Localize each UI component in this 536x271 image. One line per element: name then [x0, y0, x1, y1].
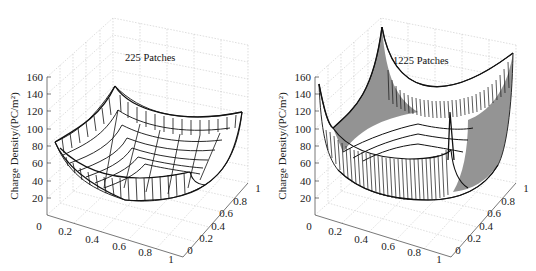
x-tick-labels: 0.2 0.4 0.6 0.8 1: [328, 225, 442, 265]
svg-text:0.2: 0.2: [58, 225, 72, 237]
svg-text:20: 20: [300, 192, 312, 204]
svg-text:80: 80: [32, 140, 44, 152]
svg-text:60: 60: [300, 157, 312, 169]
svg-text:0.2: 0.2: [328, 225, 342, 237]
x-tick-labels: 0.2 0.4 0.6 0.8 1: [58, 225, 174, 265]
svg-text:0.4: 0.4: [479, 220, 493, 232]
svg-text:120: 120: [295, 105, 312, 117]
chart-panel-1225: 160 140 120 100 80 60 40 20 0 0.2 0.4 0.…: [268, 0, 536, 271]
svg-text:0: 0: [36, 220, 42, 232]
svg-text:0: 0: [306, 220, 312, 232]
svg-text:0: 0: [455, 244, 461, 256]
svg-text:160: 160: [27, 71, 44, 83]
surface-mesh: [55, 86, 242, 201]
svg-text:20: 20: [32, 192, 44, 204]
svg-text:60: 60: [32, 157, 44, 169]
svg-text:140: 140: [295, 88, 312, 100]
svg-text:0.6: 0.6: [487, 207, 501, 219]
svg-text:1: 1: [436, 253, 442, 265]
svg-text:160: 160: [295, 71, 312, 83]
svg-text:0.2: 0.2: [467, 232, 481, 244]
svg-text:0.4: 0.4: [85, 233, 99, 245]
svg-text:0.8: 0.8: [407, 246, 421, 258]
svg-text:100: 100: [27, 123, 44, 135]
svg-text:100: 100: [295, 123, 312, 135]
svg-text:140: 140: [27, 88, 44, 100]
z-tick-labels: 160 140 120 100 80 60 40 20 0: [295, 71, 313, 232]
svg-text:0.4: 0.4: [211, 220, 225, 232]
svg-text:0.6: 0.6: [381, 240, 395, 252]
svg-text:0: 0: [187, 244, 193, 256]
panel-title: 225 Patches: [125, 52, 175, 63]
svg-text:80: 80: [300, 140, 312, 152]
svg-text:120: 120: [27, 105, 44, 117]
y-tick-labels: 0 0.2 0.4 0.6 0.8 1: [187, 182, 261, 256]
z-tick-labels: 160 140 120 100 80 60 40 20 0: [27, 71, 44, 232]
svg-text:0.8: 0.8: [138, 246, 152, 258]
svg-text:1: 1: [523, 182, 529, 194]
svg-text:0.8: 0.8: [501, 195, 515, 207]
z-axis-label: Charge Density/(PC/m²): [8, 92, 21, 200]
svg-text:0.6: 0.6: [112, 240, 126, 252]
surface-plot-225: 160 140 120 100 80 60 40 20 0 0.2 0.4 0.…: [0, 0, 268, 271]
surface-plot-1225: 160 140 120 100 80 60 40 20 0 0.2 0.4 0.…: [268, 0, 536, 271]
z-axis-label: Charge Density/(PC/m²): [276, 92, 289, 200]
surface-mesh: [319, 27, 513, 200]
svg-text:0.8: 0.8: [233, 195, 247, 207]
svg-text:1: 1: [255, 182, 261, 194]
panel-title: 1225 Patches: [393, 55, 449, 66]
svg-text:0.4: 0.4: [354, 233, 368, 245]
svg-text:0.6: 0.6: [219, 207, 233, 219]
svg-text:40: 40: [300, 175, 312, 187]
svg-text:40: 40: [32, 175, 44, 187]
svg-text:1: 1: [168, 253, 174, 265]
svg-text:0.2: 0.2: [199, 232, 213, 244]
chart-panel-225: 160 140 120 100 80 60 40 20 0 0.2 0.4 0.…: [0, 0, 268, 271]
